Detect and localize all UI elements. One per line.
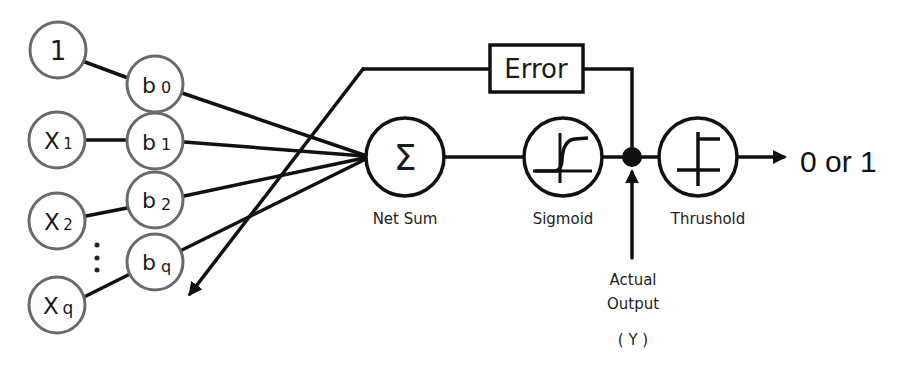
input-node-bias: 1 <box>30 22 86 78</box>
edge-x2-b2 <box>86 208 127 216</box>
input-node-x1: X 1 <box>29 112 85 168</box>
svg-text:b: b <box>142 130 156 155</box>
svg-text:X: X <box>43 293 59 319</box>
edge-xq-bq <box>86 275 128 296</box>
svg-text:( Y ): ( Y ) <box>618 331 648 349</box>
edge-b2-sum <box>184 158 364 196</box>
svg-text:1: 1 <box>63 135 73 153</box>
svg-text:q: q <box>63 298 74 318</box>
svg-text:0: 0 <box>161 78 171 97</box>
sigmoid-label: Sigmoid <box>533 210 594 228</box>
weight-sum-edges <box>182 93 364 250</box>
weight-node-b0: b 0 <box>127 56 183 112</box>
svg-text:q: q <box>161 257 171 276</box>
sigma-icon: Σ <box>394 137 417 178</box>
input-node-xq: X q <box>29 277 85 333</box>
input-weight-edges <box>85 62 128 296</box>
ellipsis-dots <box>95 243 100 273</box>
svg-text:X: X <box>44 209 60 235</box>
svg-text:2: 2 <box>63 216 73 234</box>
svg-text:Output: Output <box>607 295 659 313</box>
svg-text:2: 2 <box>161 195 171 214</box>
threshold-node: Thrushold <box>659 118 745 228</box>
sigmoid-node: Sigmoid <box>524 118 602 228</box>
svg-text:X: X <box>44 128 60 154</box>
edge-bq-sum <box>182 160 364 250</box>
edge-1-b0 <box>85 62 128 78</box>
svg-text:Actual: Actual <box>610 271 657 289</box>
net-sum-node: Σ Net Sum <box>366 118 444 228</box>
input-nodes: 1 X 1 X 2 X q <box>29 22 86 333</box>
weight-nodes: b 0 b 1 b 2 b q <box>127 56 183 290</box>
svg-text:b: b <box>142 188 156 213</box>
weight-node-b1: b 1 <box>127 113 183 169</box>
svg-text:1: 1 <box>161 135 171 154</box>
svg-text:b: b <box>142 73 156 98</box>
threshold-label: Thrushold <box>670 210 746 228</box>
actual-output-label: Actual Output ( Y ) <box>607 271 659 349</box>
output-label: 0 or 1 <box>800 145 877 178</box>
svg-text:b: b <box>142 250 156 275</box>
input-node-x2: X 2 <box>29 193 85 249</box>
svg-text:1: 1 <box>50 36 67 66</box>
weight-node-bq: b q <box>127 234 183 290</box>
error-box: Error <box>490 45 583 92</box>
net-sum-label: Net Sum <box>373 210 438 228</box>
error-label: Error <box>504 54 568 84</box>
perceptron-diagram: Error 1 X 1 X 2 X q <box>0 0 900 370</box>
junction-dot <box>622 147 642 167</box>
weight-node-b2: b 2 <box>127 172 183 228</box>
